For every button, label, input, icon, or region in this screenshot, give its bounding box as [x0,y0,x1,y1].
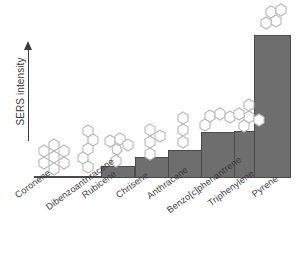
chrisene-structure [136,124,170,158]
triphenylene-structure [231,99,269,133]
pyrene-structure [256,4,296,34]
sers-intensity-bar-chart: SERS intensity [0,0,302,269]
anthracene-structure [170,112,198,150]
plot-area: Coronene Dibenzoanthracene Rubicene Chri… [0,0,302,269]
